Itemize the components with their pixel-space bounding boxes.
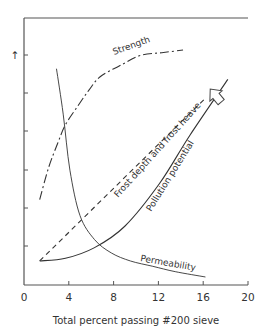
- pollution-increase-arrow-icon: [204, 84, 227, 107]
- chart: 048121620 ↑ Strength Frost depth and fro…: [0, 0, 268, 336]
- x-tick-label: 8: [110, 291, 117, 303]
- x-tick-label: 20: [241, 291, 254, 303]
- x-tick-label: 12: [152, 291, 165, 303]
- curve-strength: [40, 50, 183, 200]
- x-tick-label: 4: [65, 291, 72, 303]
- x-axis-title: Total percent passing #200 sieve: [52, 315, 219, 326]
- label-strength: Strength: [111, 34, 151, 57]
- x-tick-label: 0: [21, 291, 28, 303]
- x-tick-label: 16: [197, 291, 211, 303]
- curves: [40, 50, 228, 277]
- y-axis-up-arrow-icon: ↑: [11, 49, 20, 61]
- x-ticks: 048121620: [21, 281, 255, 303]
